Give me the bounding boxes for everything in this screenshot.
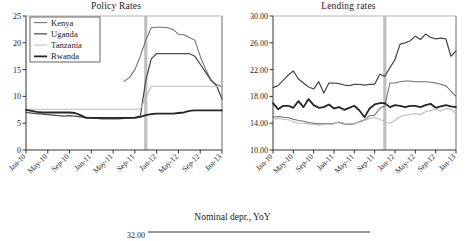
x-tick-label: May-11 bbox=[333, 152, 356, 175]
y-tick-label: 18.00 bbox=[250, 92, 268, 101]
series-line-tanzania bbox=[26, 86, 222, 109]
series-line-kenya bbox=[124, 27, 222, 86]
footer-y-axis-top-label: 32.00 bbox=[127, 231, 145, 240]
series-line-rwanda bbox=[273, 99, 456, 117]
x-tick-label: Sep-10 bbox=[49, 152, 71, 174]
x-tick-label: Sep-12 bbox=[180, 152, 202, 174]
policy-rates-plot: 0510152025Jan-10May-10Sep-10Jan-11May-11… bbox=[0, 0, 232, 200]
x-tick-label: Jan-12 bbox=[137, 152, 158, 173]
x-tick-label: May-11 bbox=[91, 152, 114, 175]
legend-label-kenya: Kenya bbox=[51, 18, 74, 28]
series-line-rwanda bbox=[26, 110, 222, 118]
series-line-uganda bbox=[273, 34, 456, 93]
y-tick-label: 22.00 bbox=[250, 66, 268, 75]
y-tick-label: 10 bbox=[13, 92, 21, 101]
legend-label-uganda: Uganda bbox=[51, 29, 78, 39]
y-tick-label: 26.00 bbox=[250, 39, 268, 48]
figure-root: Policy Rates 0510152025Jan-10May-10Sep-1… bbox=[0, 0, 465, 241]
legend-label-tanzania: Tanzania bbox=[51, 40, 82, 50]
x-tick-label: Sep-11 bbox=[355, 152, 377, 174]
x-tick-label: Sep-10 bbox=[294, 152, 316, 174]
y-tick-label: 20 bbox=[13, 39, 21, 48]
x-tick-label: May-10 bbox=[271, 152, 295, 176]
x-tick-label: Jan-13 bbox=[437, 152, 458, 173]
y-tick-label: 5 bbox=[17, 119, 21, 128]
x-tick-label: Jan-11 bbox=[72, 152, 93, 173]
x-tick-label: Jan-13 bbox=[203, 152, 224, 173]
x-tick-label: Sep-11 bbox=[115, 152, 137, 174]
y-tick-label: 14.00 bbox=[250, 119, 268, 128]
x-tick-label: May-12 bbox=[393, 152, 417, 176]
chart-title-nominal-depreciation: Nominal depr., YoY bbox=[0, 212, 465, 222]
x-tick-label: May-10 bbox=[26, 152, 50, 176]
y-tick-label: 30.00 bbox=[250, 12, 268, 21]
x-tick-label: Jan-10 bbox=[7, 152, 28, 173]
x-tick-label: May-12 bbox=[156, 152, 180, 176]
legend-label-rwanda: Rwanda bbox=[51, 51, 79, 61]
lending-rates-plot: 10.0014.0018.0022.0026.0030.00Jan-10May-… bbox=[232, 0, 465, 200]
chart-panel-policy-rates: Policy Rates 0510152025Jan-10May-10Sep-1… bbox=[0, 0, 232, 200]
y-tick-label: 25 bbox=[13, 12, 21, 21]
chart-panel-lending-rates: Lending rates 10.0014.0018.0022.0026.003… bbox=[232, 0, 465, 200]
marker-line bbox=[383, 16, 386, 150]
x-tick-label: Sep-12 bbox=[416, 152, 438, 174]
y-tick-label: 15 bbox=[13, 66, 21, 75]
